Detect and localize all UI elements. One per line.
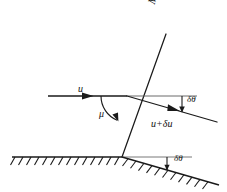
mach-wave-line xyxy=(122,34,166,157)
incoming-flow-arrowhead xyxy=(82,93,94,100)
deflection-angle-bottom-label: δθ xyxy=(174,154,183,163)
upstream-velocity-label: u xyxy=(78,84,83,94)
wall-downstream xyxy=(122,157,219,189)
wall-downstream-hatching xyxy=(123,159,209,189)
figure-canvas: Mach wave u μ δθ u+δu δθ xyxy=(0,0,227,192)
incoming-flow-line xyxy=(48,93,127,100)
deflection-angle-bottom-marker xyxy=(164,157,169,170)
downstream-velocity-label: u+δu xyxy=(151,119,172,129)
wall-upstream-hatching xyxy=(11,157,120,165)
mach-angle-label: μ xyxy=(99,109,104,119)
deflection-angle-top-marker xyxy=(179,96,185,112)
deflection-angle-top-label: δθ xyxy=(187,95,196,104)
downstream-flow-arrowhead xyxy=(167,104,180,111)
wall-upstream xyxy=(11,157,123,165)
